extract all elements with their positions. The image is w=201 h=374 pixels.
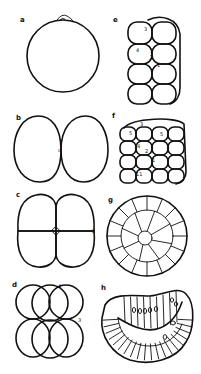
- ectoderm-cell-wall: [124, 340, 132, 354]
- blastula-cell-wall: [165, 254, 175, 264]
- annotation-f-6: 1: [152, 157, 155, 163]
- blastomere-c3: [18, 231, 56, 267]
- ectoderm-cell-wall: [137, 343, 141, 359]
- annotation-e-4: 1: [157, 62, 160, 68]
- blastula-inner-cell-wall: [151, 224, 170, 235]
- endoderm-nuclei: [132, 298, 177, 340]
- endoderm-cell-wall: [170, 293, 171, 324]
- blastula-inner-cell-wall: [147, 211, 155, 231]
- blastocoel-center-cell: [138, 231, 152, 245]
- ectoderm-cell-wall: [103, 319, 118, 320]
- endoderm-cell-wall: [157, 297, 158, 328]
- panel-label-c: c: [16, 191, 20, 199]
- cleavage-stages-figure: a b o c 2 d 4 3 e: [0, 0, 201, 374]
- blastula-inner-cell-wall: [135, 213, 142, 232]
- annotation-b-center: o: [58, 147, 61, 153]
- ectoderm-cell-wall: [104, 323, 119, 326]
- blastula-cell-wall: [110, 246, 123, 251]
- panel-label-a: a: [20, 16, 25, 24]
- blastula-cell-wall: [110, 221, 123, 226]
- blastula-inner-cell-wall: [152, 240, 172, 244]
- panel-c: c 2: [16, 191, 95, 267]
- blastula-cell-wall: [119, 208, 129, 218]
- blastomere-left: [14, 116, 61, 182]
- ectoderm-cell-wall: [164, 340, 172, 354]
- panel-b: b o: [14, 114, 108, 182]
- panel-label-e: e: [113, 16, 118, 24]
- annotation-f-5: 2: [145, 148, 148, 154]
- annotation-e-3: 2: [150, 51, 153, 57]
- ectoderm-cell-wall: [178, 319, 193, 320]
- blastomere-d-back-left-top: [16, 285, 50, 319]
- panel-label-g: g: [108, 196, 113, 204]
- gastrula-outer-wall: [102, 291, 193, 363]
- ectoderm-cell-wall: [106, 327, 120, 333]
- annotation-f-1: 3: [140, 121, 143, 127]
- blastula-cell-wall: [119, 254, 129, 264]
- ectoderm-cell-wall: [109, 331, 122, 339]
- egg-cell: [27, 20, 99, 92]
- blastula-cell-wall: [132, 260, 137, 273]
- annotation-f-2: 5: [129, 130, 132, 136]
- blastula-cell-wall: [157, 260, 162, 273]
- blastomere-c2: [56, 194, 94, 231]
- annotation-c-side: 2: [92, 228, 95, 234]
- ectoderm-inner-wall: [118, 318, 182, 346]
- annotation-f-3: 5: [160, 131, 163, 137]
- blastomere-d-back-right-top: [49, 285, 83, 319]
- blastula-inner-cell-wall: [124, 241, 139, 248]
- blastomere-c4: [56, 231, 94, 267]
- ectoderm-cell-wall: [177, 323, 192, 326]
- panel-f: f 3 5 5 4 2 1 11: [112, 112, 186, 184]
- cell-grid-e: [128, 22, 176, 104]
- panel-e: e 3 4 2 1: [113, 16, 180, 104]
- ectoderm-cell-wall: [130, 342, 136, 357]
- panel-label-b: b: [16, 114, 21, 122]
- ectoderm-cell-wall: [144, 344, 145, 360]
- panel-h: h: [101, 284, 193, 362]
- endoderm-cell-wall: [137, 297, 138, 326]
- blastula-cell-wall: [132, 199, 137, 212]
- panel-a: a: [20, 15, 99, 92]
- blastula-inner-cell-wall: [139, 245, 143, 261]
- annotation-f-7: 11: [136, 171, 142, 177]
- blastula-cell-wall: [171, 221, 184, 226]
- annotation-e-2: 4: [136, 47, 139, 53]
- endoderm-cell-wall: [124, 297, 125, 322]
- blastula-cell-wall: [165, 208, 175, 218]
- panel-d: d 4 3: [12, 281, 83, 358]
- endoderm-cell-wall: [163, 295, 164, 326]
- annotation-d-top: 4: [58, 283, 61, 289]
- annotation-e-1: 3: [144, 26, 147, 32]
- blastomere-c1: [18, 194, 56, 231]
- panel-label-f: f: [112, 112, 116, 120]
- blastula-cell-wall: [171, 246, 184, 251]
- blastomere-d-back-left-bottom: [16, 319, 50, 357]
- panel-label-d: d: [12, 281, 17, 289]
- blastula-inner-cell-wall: [122, 228, 138, 236]
- annotation-f-4: 4: [137, 143, 140, 149]
- blastula-cell-walls: [107, 196, 187, 276]
- annotation-d-side: 3: [78, 317, 81, 323]
- blastula-inner-wall: [121, 210, 173, 262]
- blastomere-right: [61, 116, 108, 182]
- panel-label-h: h: [101, 284, 106, 292]
- panel-g: g: [107, 196, 187, 276]
- blastula-inner-cell-wall: [148, 244, 159, 259]
- endoderm-cell-wall: [131, 297, 132, 324]
- blastomere-d-back-right-bottom: [49, 319, 83, 357]
- blastula-cell-wall: [157, 199, 162, 212]
